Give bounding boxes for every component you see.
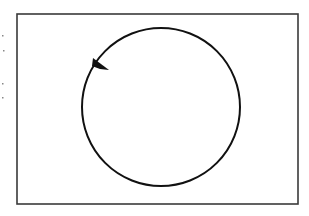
edge-mark bbox=[2, 97, 4, 99]
frame-rectangle bbox=[17, 14, 298, 204]
edge-mark bbox=[2, 83, 4, 85]
wedge-marker-icon bbox=[92, 58, 109, 70]
diagram-canvas bbox=[0, 0, 309, 216]
edge-mark bbox=[2, 35, 4, 37]
circle bbox=[82, 28, 240, 186]
edge-marks bbox=[2, 35, 5, 99]
edge-mark bbox=[3, 50, 5, 52]
